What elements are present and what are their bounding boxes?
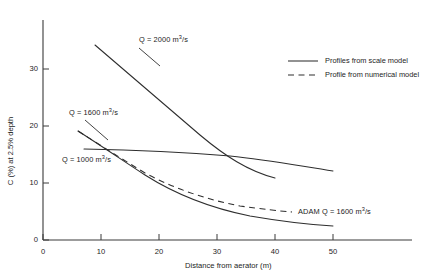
annotation-q1000-suffix: /s (105, 155, 111, 164)
x-tick-label-0: 0 (31, 248, 55, 256)
x-axis-title: Distance from aerator (m) (185, 262, 272, 270)
y-axis-ticks (43, 69, 49, 240)
x-axis-ticks (43, 234, 333, 240)
x-tick-label-40: 40 (263, 248, 287, 256)
annotation-q1600-prefix: Q = 1600 m (69, 108, 109, 117)
legend-label-numerical-model: Profile from numerical model (325, 71, 419, 78)
annotation-q2000-suffix: /s (182, 35, 188, 44)
plot-canvas (0, 0, 422, 280)
annotation-q1000-prefix: Q = 1000 m (62, 155, 102, 164)
y-axis-title-text: C (%) at 2.5% depth (7, 117, 15, 185)
curve-adam-q1600 (78, 131, 292, 212)
annotation-adam-prefix: ADAM Q = 1600 m (298, 207, 362, 216)
chart-figure: 0 10 20 30 0 10 20 30 40 50 Distance fro… (0, 0, 422, 280)
curve-q1600 (78, 131, 333, 226)
x-tick-label-20: 20 (147, 248, 171, 256)
annotation-adam-q1600: ADAM Q = 1600 m3/s (298, 208, 371, 215)
annotation-q2000-prefix: Q = 2000 m (139, 35, 179, 44)
y-axis-title: C (%) at 2.5% depth (4, 96, 18, 206)
annotation-q1600: Q = 1600 m3/s (69, 109, 118, 116)
legend-label-scale-model: Profiles from scale model (325, 57, 408, 64)
y-tick-label-0: 0 (20, 236, 38, 244)
annotation-q1600-suffix: /s (112, 108, 118, 117)
annotation-q1000: Q = 1000 m3/s (62, 156, 111, 163)
annotation-q2000: Q = 2000 m3/s (139, 36, 188, 43)
x-tick-label-50: 50 (321, 248, 345, 256)
annotation-adam-suffix: /s (365, 207, 371, 216)
leader-line-q2000 (139, 48, 160, 66)
y-tick-label-10: 10 (20, 179, 38, 187)
x-tick-label-30: 30 (205, 248, 229, 256)
y-tick-label-30: 30 (20, 65, 38, 73)
x-tick-label-10: 10 (89, 248, 113, 256)
leader-line-q1600 (85, 120, 108, 140)
y-tick-label-20: 20 (20, 122, 38, 130)
